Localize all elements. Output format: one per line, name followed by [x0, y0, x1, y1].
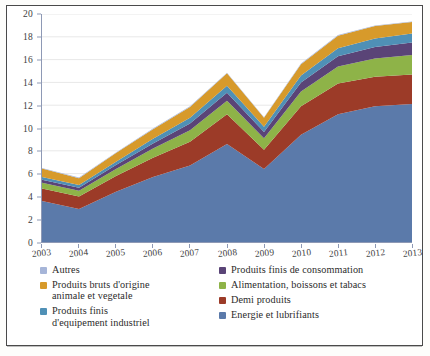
legend-item-label: Produits finisd'equipement industriel [52, 305, 150, 328]
legend-item[interactable]: Demi produits [219, 294, 399, 305]
x-tick-label: 2008 [217, 247, 237, 259]
y-tick-label: 0 [28, 238, 33, 248]
x-tick-mark [152, 244, 153, 248]
legend-item-label: Produits bruts d'origineanimale et veget… [52, 279, 150, 302]
x-tick-mark [41, 244, 42, 248]
legend-item-label-line2: animale et vegetale [52, 290, 150, 301]
legend-swatch-icon [40, 308, 47, 315]
x-tick-label: 2004 [68, 247, 88, 259]
y-tick-label: 4 [28, 192, 33, 202]
chart-legend: AutresProduits bruts d'origineanimale et… [26, 264, 406, 340]
legend-swatch-icon [40, 282, 47, 289]
legend-item-label-line2: d'equipement industriel [52, 317, 150, 328]
legend-item[interactable]: Produits finisd'equipement industriel [40, 305, 220, 328]
x-tick-label: 2005 [106, 247, 126, 259]
x-tick-mark [78, 244, 79, 248]
x-tick-mark [264, 244, 265, 248]
x-tick-label: 2007 [180, 247, 200, 259]
y-tick-label: 14 [23, 78, 33, 88]
legend-item[interactable]: Autres [40, 264, 220, 275]
x-tick-label: 2012 [365, 247, 385, 259]
area-chart-svg [42, 14, 412, 242]
legend-swatch-icon [219, 297, 226, 304]
legend-swatch-icon [219, 267, 226, 274]
stacked-area-plot [41, 14, 412, 243]
legend-item-label: Produits finis de consommation [231, 264, 363, 275]
y-tick-label: 6 [28, 169, 33, 179]
x-tick-label: 2013 [402, 247, 422, 259]
legend-item-label: Autres [52, 264, 80, 275]
legend-swatch-icon [40, 267, 47, 274]
x-tick-mark [227, 244, 228, 248]
legend-item[interactable]: Produits finis de consommation [219, 264, 399, 275]
legend-item[interactable]: Produits bruts d'origineanimale et veget… [40, 279, 220, 302]
legend-item[interactable]: Alimentation, boissons et tabacs [219, 279, 399, 290]
legend-swatch-icon [219, 312, 226, 319]
y-tick-label: 8 [28, 146, 33, 156]
x-tick-label: 2010 [291, 247, 311, 259]
legend-item[interactable]: Energie et lubrifiants [219, 309, 399, 320]
y-axis: 02468101214161820 [0, 14, 38, 243]
legend-item-label: Alimentation, boissons et tabacs [231, 279, 366, 290]
y-tick-label: 10 [23, 124, 33, 134]
x-tick-mark [189, 244, 190, 248]
footer-divider [7, 346, 422, 347]
x-tick-label: 2003 [31, 247, 51, 259]
legend-column-left: AutresProduits bruts d'origineanimale et… [40, 264, 220, 332]
x-tick-label: 2009 [254, 247, 274, 259]
x-tick-mark [115, 244, 116, 248]
y-tick-label: 12 [23, 101, 33, 111]
legend-item-label: Energie et lubrifiants [231, 309, 319, 320]
x-tick-mark [301, 244, 302, 248]
x-tick-mark [338, 244, 339, 248]
plot-area [41, 14, 412, 243]
legend-swatch-icon [219, 282, 226, 289]
x-tick-label: 2011 [328, 247, 348, 259]
y-tick-label: 20 [23, 9, 33, 19]
y-tick-label: 16 [23, 55, 33, 65]
y-tick-label: 18 [23, 32, 33, 42]
x-tick-mark [375, 244, 376, 248]
y-tick-label: 2 [28, 215, 33, 225]
x-tick-mark [412, 244, 413, 248]
x-tick-label: 2006 [143, 247, 163, 259]
legend-item-label: Demi produits [231, 294, 291, 305]
chart-figure: 02468101214161820 2003200420052006200720… [0, 0, 430, 356]
legend-column-right: Produits finis de consommationAlimentati… [219, 264, 399, 324]
